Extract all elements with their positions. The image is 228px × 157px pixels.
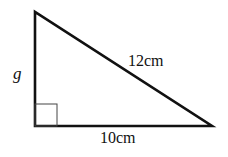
label-base: 10cm: [100, 129, 136, 146]
triangle: [35, 12, 212, 126]
label-hypotenuse: 12cm: [128, 52, 164, 69]
label-vertical-side: g: [13, 64, 22, 83]
right-angle-marker: [35, 104, 57, 126]
triangle-diagram: g 12cm 10cm: [0, 0, 228, 157]
